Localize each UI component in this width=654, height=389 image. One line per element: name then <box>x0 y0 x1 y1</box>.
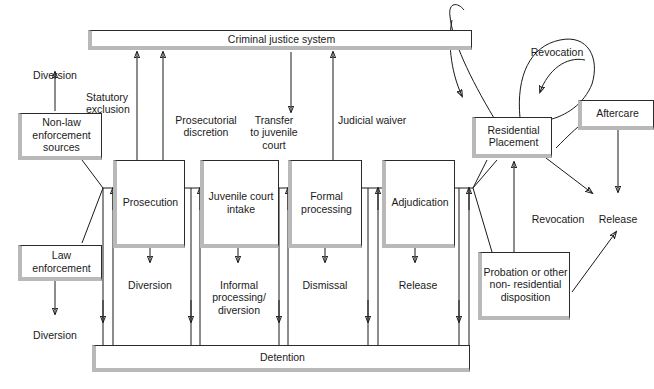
box-juvenile-court-intake-label: Juvenile court intake <box>204 190 278 215</box>
box-law-enforcement: Law enforcement <box>18 245 102 281</box>
bar-detention: Detention <box>92 345 470 372</box>
box-probation-label: Probation or other non- residential disp… <box>482 266 569 304</box>
box-residential-placement: Residential Placement <box>472 117 552 158</box>
bar-criminal-justice-system: Criminal justice system <box>88 30 472 50</box>
box-non-law-enforcement-sources: Non-law enforcement sources <box>18 113 102 160</box>
box-aftercare: Aftercare <box>578 100 654 130</box>
box-adjudication-label: Adjudication <box>391 196 448 209</box>
label-informal-processing-diversion: Informal processing/ diversion <box>200 266 278 316</box>
box-juvenile-court-intake: Juvenile court intake <box>200 160 279 248</box>
bar-detention-label: Detention <box>260 351 305 363</box>
label-statutory-exclusion: Statutory exclusion <box>86 78 142 116</box>
label-adjudication-release: Release <box>382 266 454 291</box>
box-residential-placement-label: Residential Placement <box>476 124 551 149</box>
label-judicial-waiver: Judicial waiver <box>338 101 430 126</box>
box-non-law-enforcement-sources-label: Non-law enforcement sources <box>22 116 101 154</box>
label-diversion-from-law-enforcement: Diversion <box>15 316 95 341</box>
box-formal-processing-label: Formal processing <box>292 190 361 215</box>
box-probation-or-other-nonresidential-disposition: Probation or other non- residential disp… <box>478 252 570 320</box>
box-prosecution-label: Prosecution <box>123 196 178 209</box>
label-release-final: Release <box>590 200 646 225</box>
label-prosecutorial-discretion: Prosecutorial discretion <box>168 101 244 139</box>
flowchart-canvas: Criminal justice system Detention Non-la… <box>0 0 654 389</box>
label-transfer-to-juvenile-court: Transfer to juvenile court <box>243 101 305 151</box>
box-prosecution: Prosecution <box>113 160 185 248</box>
label-revocation-mid: Revocation <box>521 200 595 225</box>
box-adjudication: Adjudication <box>382 160 455 248</box>
box-formal-processing: Formal processing <box>288 160 362 248</box>
label-diversion-from-non-law-enforcement: Diversion <box>15 56 95 81</box>
label-dismissal: Dismissal <box>288 266 362 291</box>
label-prosecution-diversion: Diversion <box>112 266 188 291</box>
label-revocation-top: Revocation <box>518 33 596 58</box>
bar-criminal-justice-system-label: Criminal justice system <box>228 33 335 45</box>
box-law-enforcement-label: Law enforcement <box>22 249 101 274</box>
box-aftercare-label: Aftercare <box>596 107 639 120</box>
